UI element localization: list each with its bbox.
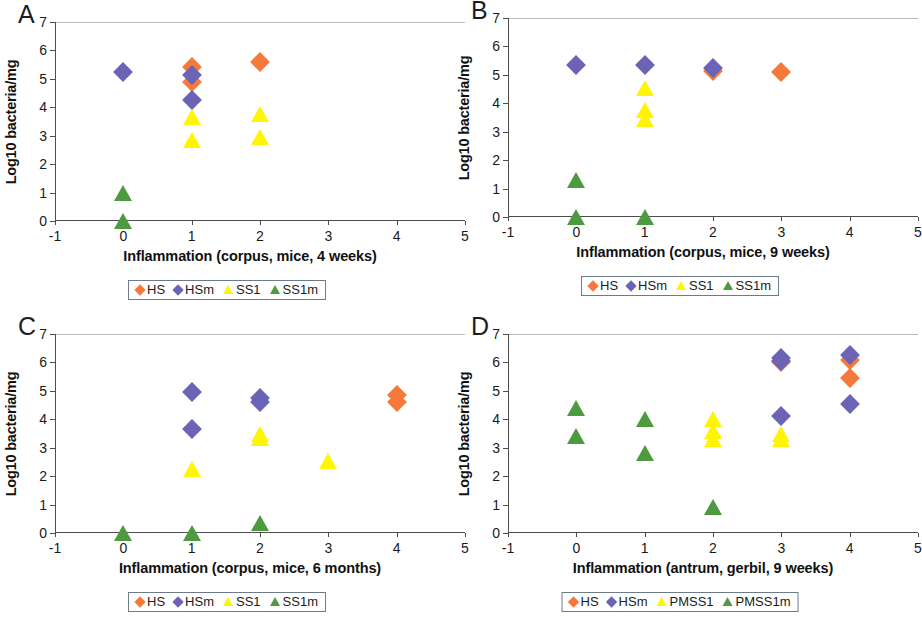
legend-label: SS1 bbox=[236, 283, 261, 296]
x-axis-tick bbox=[781, 533, 782, 537]
data-point-hsm bbox=[771, 407, 791, 427]
data-point-pmss1m bbox=[636, 445, 654, 461]
legend-entry-pmss1: PMSS1 bbox=[656, 595, 713, 608]
panel-b-legend: HSHSmSS1SS1m bbox=[581, 276, 779, 296]
y-axis-tick-label: 0 bbox=[39, 526, 47, 540]
y-axis-tick-label: 6 bbox=[492, 39, 500, 53]
y-axis-tick bbox=[503, 18, 508, 19]
legend-label: HSm bbox=[619, 595, 648, 608]
y-axis-tick-label: 5 bbox=[39, 72, 47, 86]
data-point-pmss1 bbox=[704, 431, 722, 447]
x-axis-tick-label: -1 bbox=[49, 541, 61, 555]
y-axis-tick-label: 2 bbox=[39, 469, 47, 483]
legend-entry-hsm: HSm bbox=[608, 595, 648, 608]
y-axis-tick-label: 4 bbox=[39, 100, 47, 114]
plot-top-border bbox=[55, 22, 465, 23]
y-axis-tick-label: 6 bbox=[39, 355, 47, 369]
y-axis-tick-label: 2 bbox=[39, 157, 47, 171]
legend-triangle-icon bbox=[223, 285, 233, 294]
data-point-ss1 bbox=[183, 461, 201, 477]
data-point-pmss1 bbox=[772, 431, 790, 447]
y-axis-tick-label: 2 bbox=[492, 469, 500, 483]
data-point-hsm bbox=[182, 90, 202, 110]
data-point-hsm bbox=[182, 382, 202, 402]
x-axis-tick bbox=[645, 533, 646, 537]
data-point-hsm bbox=[635, 55, 655, 75]
y-axis-tick-label: 1 bbox=[492, 498, 500, 512]
x-axis-tick bbox=[192, 221, 193, 225]
panel-b-letter: B bbox=[471, 0, 488, 23]
data-point-ss1 bbox=[251, 430, 269, 446]
x-axis-tick-label: 4 bbox=[393, 541, 401, 555]
y-axis-tick bbox=[50, 107, 55, 108]
x-axis-tick-label: -1 bbox=[502, 541, 514, 555]
data-point-ss1 bbox=[251, 129, 269, 145]
panel-d: D Log10 bacteria/mg 01234567-1012345 Inf… bbox=[453, 312, 907, 629]
x-axis-tick-label: 0 bbox=[572, 541, 580, 555]
x-axis-tick bbox=[397, 221, 398, 225]
legend-diamond-icon bbox=[587, 280, 598, 291]
panel-d-plot-area: 01234567-1012345 bbox=[508, 334, 918, 533]
x-axis-tick bbox=[55, 221, 56, 225]
y-axis-tick-label: 2 bbox=[492, 153, 500, 167]
legend-label: HS bbox=[147, 283, 165, 296]
legend-label: PMSS1m bbox=[736, 595, 791, 608]
legend-diamond-icon bbox=[606, 596, 617, 607]
x-axis-tick bbox=[260, 533, 261, 537]
legend-diamond-icon bbox=[172, 284, 183, 295]
plot-top-border bbox=[508, 334, 918, 335]
panel-a-y-axis-label: Log10 bacteria/mg bbox=[2, 22, 20, 221]
y-axis-tick bbox=[50, 50, 55, 51]
y-axis-tick bbox=[503, 75, 508, 76]
y-axis-tick-label: 0 bbox=[492, 210, 500, 224]
x-axis-tick-label: 3 bbox=[324, 229, 332, 243]
data-point-ss1m bbox=[636, 209, 654, 225]
data-point-ss1m bbox=[183, 525, 201, 541]
y-axis-tick-label: 7 bbox=[492, 327, 500, 341]
y-axis-tick bbox=[503, 419, 508, 420]
data-point-pmss1m bbox=[567, 428, 585, 444]
data-point-hsm bbox=[566, 55, 586, 75]
x-axis-tick-label: 2 bbox=[709, 541, 717, 555]
legend-label: PMSS1 bbox=[669, 595, 713, 608]
plot-top-border bbox=[55, 334, 465, 335]
x-axis-tick-label: 3 bbox=[324, 541, 332, 555]
x-axis-tick bbox=[260, 221, 261, 225]
x-axis-tick bbox=[713, 217, 714, 221]
y-axis-tick bbox=[503, 362, 508, 363]
y-axis-tick bbox=[50, 476, 55, 477]
x-axis-tick-label: 3 bbox=[777, 225, 785, 239]
y-axis-tick-label: 6 bbox=[39, 43, 47, 57]
y-axis-tick-label: 6 bbox=[492, 355, 500, 369]
y-axis-tick bbox=[503, 334, 508, 335]
y-axis-tick-label: 5 bbox=[39, 384, 47, 398]
y-axis-tick-label: 1 bbox=[492, 182, 500, 196]
legend-entry-hs: HS bbox=[570, 595, 599, 608]
data-point-hsm bbox=[182, 419, 202, 439]
panel-b-x-axis-label: Inflammation (corpus, mice, 9 weeks) bbox=[493, 244, 913, 260]
legend-entry-hsm: HSm bbox=[627, 279, 667, 292]
y-axis-tick bbox=[503, 448, 508, 449]
legend-label: HS bbox=[581, 595, 599, 608]
y-axis-tick-label: 4 bbox=[492, 412, 500, 426]
y-axis-tick-label: 3 bbox=[39, 441, 47, 455]
panel-a-letter: A bbox=[18, 2, 35, 27]
legend-entry-ss1: SS1 bbox=[223, 595, 261, 608]
x-axis-tick-label: 4 bbox=[393, 229, 401, 243]
data-point-pmss1m bbox=[636, 411, 654, 427]
y-axis-tick bbox=[503, 505, 508, 506]
legend-entry-ss1: SS1 bbox=[223, 283, 261, 296]
y-axis-tick-label: 1 bbox=[39, 186, 47, 200]
legend-entry-ss1: SS1 bbox=[676, 279, 714, 292]
legend-entry-hs: HS bbox=[136, 595, 165, 608]
legend-diamond-icon bbox=[172, 596, 183, 607]
legend-triangle-icon bbox=[270, 597, 280, 606]
y-axis-tick bbox=[503, 476, 508, 477]
data-point-ss1 bbox=[636, 80, 654, 96]
legend-diamond-icon bbox=[134, 284, 145, 295]
legend-entry-ss1m: SS1m bbox=[270, 595, 318, 608]
panel-c-legend: HSHSmSS1SS1m bbox=[128, 592, 326, 612]
legend-diamond-icon bbox=[134, 596, 145, 607]
y-axis-tick-label: 7 bbox=[492, 11, 500, 25]
